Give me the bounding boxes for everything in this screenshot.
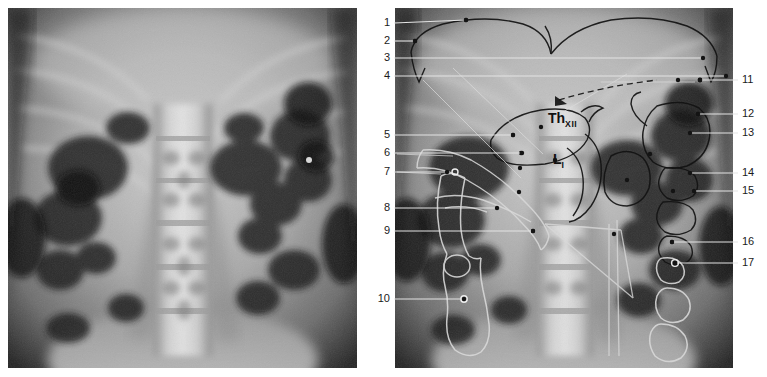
annotated-radiograph-image <box>395 8 733 368</box>
plain-radiograph-image <box>8 8 357 368</box>
label-number-15: 15 <box>742 185 754 196</box>
label-number-16: 16 <box>742 236 754 247</box>
vertebra-subscript: XII <box>565 119 577 129</box>
label-number-12: 12 <box>742 108 754 119</box>
plain-radiograph-panel <box>8 8 357 368</box>
label-number-1: 1 <box>384 17 390 28</box>
annotated-radiograph-panel <box>395 8 733 368</box>
label-number-9: 9 <box>384 225 390 236</box>
label-number-17: 17 <box>742 257 754 268</box>
label-number-10: 10 <box>378 293 390 304</box>
label-number-7: 7 <box>384 166 390 177</box>
label-number-2: 2 <box>384 35 390 46</box>
label-number-3: 3 <box>384 52 390 63</box>
figure-root: 12345678910 11121314151617 ThXII LI <box>0 0 767 377</box>
vertebra-base: L <box>553 151 562 167</box>
vertebra-label-thxii: ThXII <box>548 111 577 128</box>
label-number-8: 8 <box>384 202 390 213</box>
label-number-11: 11 <box>742 74 753 85</box>
label-number-5: 5 <box>384 129 390 140</box>
label-number-6: 6 <box>384 147 390 158</box>
vertebra-base: Th <box>548 110 565 126</box>
label-number-14: 14 <box>742 167 754 178</box>
label-number-4: 4 <box>384 70 390 81</box>
label-number-13: 13 <box>742 127 754 138</box>
vertebra-label-li: LI <box>553 152 564 169</box>
vertebra-subscript: I <box>562 160 565 170</box>
